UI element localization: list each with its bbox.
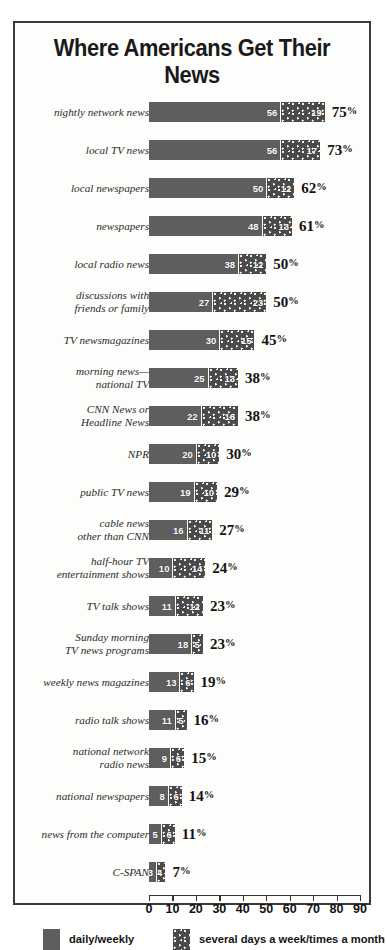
percent-sign: % xyxy=(241,447,252,458)
row-total-label: 19% xyxy=(194,674,227,691)
row-category-label: local newspapers xyxy=(31,182,149,195)
bar-segment-daily-weekly: 38 xyxy=(149,254,238,274)
bar-segment-several-days: 4 xyxy=(156,862,165,882)
row-category-label: public TV news xyxy=(31,486,149,499)
bar-segment-value: 38 xyxy=(225,259,239,270)
bar-segment-value: 11 xyxy=(162,715,175,726)
row-total-label: 62% xyxy=(294,180,327,197)
bar-segment-value: 30 xyxy=(206,335,220,346)
x-axis: 0102030405060708090 xyxy=(149,895,360,919)
chart-row: local TV news561773% xyxy=(15,131,373,169)
percent-sign: % xyxy=(288,295,299,306)
row-total-value: 50 xyxy=(273,294,288,310)
row-total-value: 27 xyxy=(219,522,234,538)
bar-segment-value: 8 xyxy=(159,791,167,802)
x-axis-line xyxy=(149,895,360,896)
percent-sign: % xyxy=(196,827,207,838)
row-category-label: morning news— national TV xyxy=(31,365,149,390)
row-category-label: TV newsmagazines xyxy=(31,334,149,347)
bar-segment-value: 18 xyxy=(178,639,192,650)
percent-sign: % xyxy=(216,675,227,686)
bar-segment-daily-weekly: 8 xyxy=(149,786,168,806)
bar-segment-daily-weekly: 50 xyxy=(149,178,266,198)
row-category-label: radio talk shows xyxy=(31,714,149,727)
row-total-value: 62 xyxy=(301,180,316,196)
stacked-bar: 2513 xyxy=(149,368,238,388)
row-category-label: local TV news xyxy=(31,144,149,157)
bar-segment-several-days: 5 xyxy=(175,710,187,730)
stacked-bar: 5617 xyxy=(149,140,320,160)
x-axis-tick-label: 80 xyxy=(330,902,344,916)
row-category-label: half-hour TV entertainment shows xyxy=(31,555,149,580)
stacked-bar: 3812 xyxy=(149,254,266,274)
chart-row: radio talk shows11516% xyxy=(15,701,373,739)
bar-segment-value: 13 xyxy=(225,373,239,384)
bar-segment-several-days: 15 xyxy=(219,330,254,350)
legend-swatch-daily-weekly xyxy=(43,929,60,950)
row-total-label: 75% xyxy=(325,104,358,121)
row-total-value: 14 xyxy=(189,788,204,804)
row-total-value: 50 xyxy=(273,256,288,272)
chart-row: C-SPAN347% xyxy=(15,853,373,891)
chart-row: NPR201030% xyxy=(15,435,373,473)
x-axis-tick xyxy=(196,895,197,901)
bar-segment-daily-weekly: 25 xyxy=(149,368,208,388)
percent-sign: % xyxy=(260,409,271,420)
percent-sign: % xyxy=(225,599,236,610)
percent-sign: % xyxy=(314,219,325,230)
row-total-label: 29% xyxy=(217,484,250,501)
stacked-bar: 56 xyxy=(149,824,175,844)
row-category-label: C-SPAN xyxy=(31,866,149,879)
stacked-bar: 2216 xyxy=(149,406,238,426)
bar-segment-value: 22 xyxy=(187,411,201,422)
legend-item: several days a week/times a month xyxy=(173,929,385,950)
percent-sign: % xyxy=(347,105,358,116)
percent-sign: % xyxy=(316,181,327,192)
page-title: Where Americans Get Their News xyxy=(27,35,356,89)
x-axis-tick-label: 30 xyxy=(212,902,226,916)
legend-swatch-several-days xyxy=(173,929,190,950)
bar-segment-several-days: 10 xyxy=(196,444,219,464)
x-axis-tick xyxy=(313,895,314,901)
row-total-label: 61% xyxy=(292,218,325,235)
stacked-bar: 86 xyxy=(149,786,182,806)
bar-segment-value: 16 xyxy=(173,525,187,536)
stacked-bar: 4813 xyxy=(149,216,292,236)
row-category-label: national network radio news xyxy=(31,745,149,770)
x-axis-tick xyxy=(266,895,267,901)
bar-segment-several-days: 16 xyxy=(201,406,239,426)
bar-segment-value: 14 xyxy=(192,563,206,574)
row-category-label: discussions with friends or family xyxy=(31,289,149,314)
row-total-value: 23 xyxy=(210,598,225,614)
bar-segment-value: 10 xyxy=(203,487,217,498)
stacked-bar: 5619 xyxy=(149,102,325,122)
x-axis-tick-label: 0 xyxy=(146,902,153,916)
bar-segment-value: 19 xyxy=(311,107,325,118)
bar-segment-value: 4 xyxy=(157,867,165,878)
x-axis-tick-label: 90 xyxy=(353,902,367,916)
row-total-label: 14% xyxy=(182,788,215,805)
bar-segment-several-days: 10 xyxy=(194,482,217,502)
stacked-bar: 2010 xyxy=(149,444,219,464)
chart-row: TV talk shows111223% xyxy=(15,587,373,625)
bar-segment-value: 11 xyxy=(199,525,212,536)
row-total-label: 27% xyxy=(212,522,245,539)
bar-segment-several-days: 12 xyxy=(266,178,294,198)
row-category-label: national newspapers xyxy=(31,790,149,803)
bar-segment-daily-weekly: 11 xyxy=(149,710,175,730)
bar-segment-value: 3 xyxy=(148,867,156,878)
bar-segment-daily-weekly: 16 xyxy=(149,520,187,540)
row-total-value: 38 xyxy=(245,408,260,424)
percent-sign: % xyxy=(277,333,288,344)
row-total-value: 61 xyxy=(299,218,314,234)
chart-row: weekly news magazines13619% xyxy=(15,663,373,701)
bar-segment-value: 9 xyxy=(162,753,170,764)
row-category-label: weekly news magazines xyxy=(31,676,149,689)
x-axis-tick xyxy=(360,895,361,901)
bar-segment-daily-weekly: 5 xyxy=(149,824,161,844)
row-total-value: 45 xyxy=(262,332,277,348)
percent-sign: % xyxy=(206,751,217,762)
percent-sign: % xyxy=(225,637,236,648)
bar-segment-value: 12 xyxy=(189,601,203,612)
bar-segment-several-days: 17 xyxy=(280,140,320,160)
